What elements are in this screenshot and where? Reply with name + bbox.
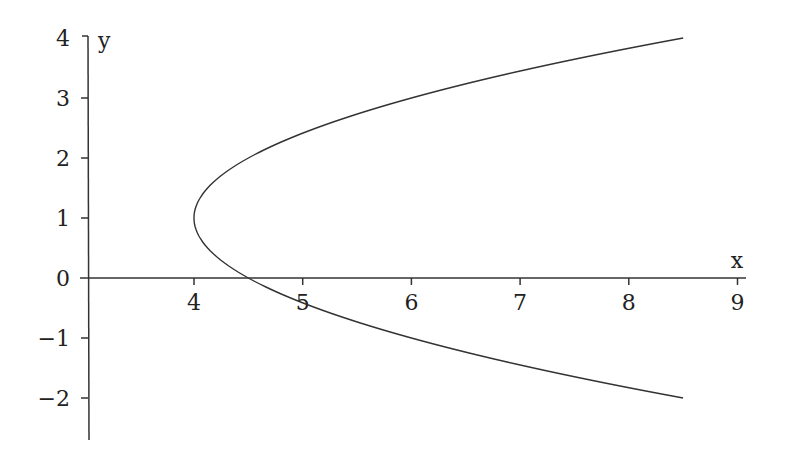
y-axis [88,36,89,440]
x-tick-label: 6 [404,290,418,315]
y-tick-label: −2 [38,386,70,411]
y-tick-label: 0 [56,266,70,291]
y-axis-label: y [97,28,111,53]
x-tick-label: 8 [622,290,636,315]
plot-area: 43210−1−2456789yx [0,0,785,463]
x-tick-label: 9 [731,290,745,315]
y-tick-label: 2 [56,146,70,171]
x-tick-label: 4 [187,290,201,315]
y-tick-label: −1 [38,326,70,351]
y-tick-label: 4 [56,26,70,51]
x-tick-label: 7 [513,290,527,315]
chart: 43210−1−2456789yx [0,0,785,463]
x-axis-label: x [731,248,744,273]
parabola-curve [194,38,683,398]
y-tick-label: 3 [56,86,70,111]
y-tick-label: 1 [56,206,70,231]
